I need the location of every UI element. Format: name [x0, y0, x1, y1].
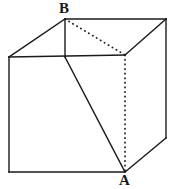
edge-top-left-diagonal [9, 19, 65, 57]
cube-figure: B A [0, 0, 175, 189]
cube-diagram-svg [0, 0, 175, 189]
edge-top-right-diagonal [125, 19, 166, 55]
edge-front-top [9, 55, 125, 57]
cube-hidden-edges [65, 19, 125, 172]
cube-solid-edges [9, 19, 166, 172]
vertex-label-b: B [59, 1, 69, 16]
hidden-edge-b-to-back-vertex [65, 19, 125, 55]
section-diagonal-front [65, 57, 125, 172]
vertex-label-a: A [119, 173, 130, 188]
edge-right-bottom-diagonal [125, 138, 166, 172]
